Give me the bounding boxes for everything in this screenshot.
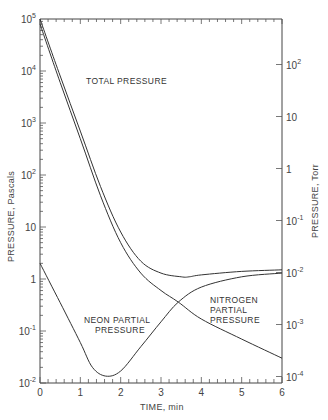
x-tick-label: 3 [158, 387, 164, 398]
neon-label-line2: PRESSURE [95, 325, 145, 335]
neon-label-line1: NEON PARTIAL [84, 315, 150, 325]
left-y-tick-label: 105 [21, 12, 36, 25]
left-y-tick-label: 10-1 [19, 324, 36, 337]
total-pressure-curve [40, 19, 282, 277]
x-tick-label: 0 [37, 387, 43, 398]
left-y-tick-label: 104 [21, 64, 36, 77]
right-y-axis-title: PRESSURE, Torr [310, 164, 320, 238]
x-tick-label: 2 [118, 387, 124, 398]
right-y-tick-label: 102 [286, 58, 301, 71]
left-y-tick-label: 10 [25, 222, 37, 233]
left-y-tick-label: 1 [30, 274, 36, 285]
left-y-tick-label: 10-2 [19, 376, 36, 389]
x-tick-label: 6 [279, 387, 285, 398]
total-pressure-label: TOTAL PRESSURE [86, 76, 167, 86]
nitrogen-label-line2: PARTIAL [210, 305, 247, 315]
right-y-tick-label: 10-4 [286, 370, 303, 383]
right-y-tick-label: 10-3 [286, 318, 303, 331]
x-tick-label: 4 [199, 387, 205, 398]
right-y-tick-label: 10-1 [286, 214, 303, 227]
right-y-tick-label: 10 [286, 112, 298, 123]
nitrogen-label-line1: NITROGEN [210, 295, 258, 305]
plot-frame [40, 19, 282, 383]
pressure-chart: 012345610510410310210110-110-210210110-1… [0, 0, 328, 420]
x-tick-label: 5 [239, 387, 245, 398]
left-y-axis-title: PRESSURE, Pascals [6, 171, 16, 262]
right-y-tick-label: 10-2 [286, 266, 303, 279]
right-y-tick-label: 1 [286, 164, 292, 175]
left-y-tick-label: 103 [21, 116, 36, 129]
nitrogen-label-line3: PRESSURE [210, 315, 260, 325]
left-y-tick-label: 102 [21, 168, 36, 181]
x-tick-label: 1 [78, 387, 84, 398]
x-axis-title: TIME, min [140, 402, 184, 412]
